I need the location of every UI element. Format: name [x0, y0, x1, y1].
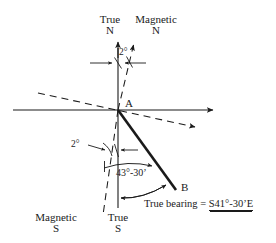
label-point-b: B [181, 182, 188, 193]
label-declination-top: 2° [119, 48, 128, 58]
label-declination-bottom: 2° [71, 140, 80, 150]
label-true-north: True N [92, 14, 128, 36]
label-magnetic-bearing-angle: 43°-30’ [116, 168, 147, 178]
true-bearing-statement: True bearing = S41°-30’E [144, 199, 253, 210]
label-magnetic-north: Magnetic N [128, 14, 184, 36]
true-bearing-arc [121, 185, 166, 198]
true-south-letter: S [115, 223, 121, 234]
true-bearing-prefix: True bearing = [144, 198, 206, 209]
label-true-south: True S [100, 212, 136, 234]
true-north-letter: N [106, 25, 114, 36]
magnetic-south-letter: S [53, 223, 59, 234]
true-bearing-value: S41°-30’E [209, 198, 253, 211]
magnetic-north-letter: N [152, 25, 160, 36]
bearing-diagram: True N Magnetic N 2° A 2° 43°-30’ B True… [0, 0, 276, 243]
label-magnetic-south: Magnetic S [28, 212, 84, 234]
declination-bottom-measure [88, 143, 138, 157]
label-point-a: A [125, 98, 133, 109]
